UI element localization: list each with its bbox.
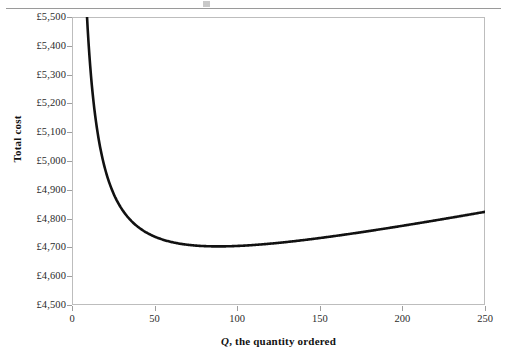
y-axis-tick-mark [67, 276, 72, 277]
y-axis-tick-mark [67, 75, 72, 76]
x-axis-title-rest: , the quantity ordered [229, 335, 336, 347]
x-axis-tick-label: 0 [45, 313, 99, 325]
y-axis-tick-label: £5,300 [0, 69, 66, 80]
y-axis-tick-labels: £4,500£4,600£4,700£4,800£4,900£5,000£5,1… [0, 0, 66, 359]
x-axis-tick-mark [402, 306, 403, 311]
y-axis-tick-mark [67, 46, 72, 47]
x-axis-tick-label: 150 [293, 313, 347, 325]
y-axis-tick-mark [67, 17, 72, 18]
y-axis-tick-mark [67, 247, 72, 248]
y-axis-tick-mark [67, 161, 72, 162]
y-axis-tick-mark [67, 190, 72, 191]
x-axis-tick-mark [237, 306, 238, 311]
y-axis-tick-label: £4,700 [0, 241, 66, 252]
figure: £4,500£4,600£4,700£4,800£4,900£5,000£5,1… [0, 0, 507, 359]
y-axis-tick-label: £4,900 [0, 184, 66, 195]
y-axis-tick-label: £5,000 [0, 155, 66, 166]
y-axis-tick-mark [67, 305, 72, 306]
y-axis-tick-label: £5,500 [0, 11, 66, 22]
y-axis-title: Total cost [11, 94, 23, 184]
y-axis-tick-mark [67, 132, 72, 133]
x-axis-tick-mark [72, 306, 73, 311]
x-axis-tick-label: 50 [128, 313, 182, 325]
y-axis-tick-mark [67, 103, 72, 104]
x-axis-tick-mark [320, 306, 321, 311]
top-horizontal-rule [6, 8, 501, 9]
y-axis-tick-label: £5,200 [0, 97, 66, 108]
x-axis-symbol: Q [221, 335, 229, 347]
x-axis-tick-label: 100 [210, 313, 264, 325]
x-axis-tick-label: 200 [375, 313, 429, 325]
y-axis-tick-label: £4,500 [0, 299, 66, 310]
x-axis-tick-label: 250 [458, 313, 507, 325]
top-rule-artifact [203, 1, 210, 7]
y-axis-tick-label: £4,600 [0, 270, 66, 281]
y-axis-tick-label: £5,400 [0, 40, 66, 51]
y-axis-tick-mark [67, 219, 72, 220]
y-axis-tick-label: £4,800 [0, 213, 66, 224]
x-axis-tick-mark [485, 306, 486, 311]
y-axis-tick-label: £5,100 [0, 126, 66, 137]
x-axis-tick-mark [155, 306, 156, 311]
total-cost-curve [82, 0, 485, 246]
chart-plot [72, 17, 485, 305]
x-axis-title: Q, the quantity ordered [72, 335, 485, 347]
